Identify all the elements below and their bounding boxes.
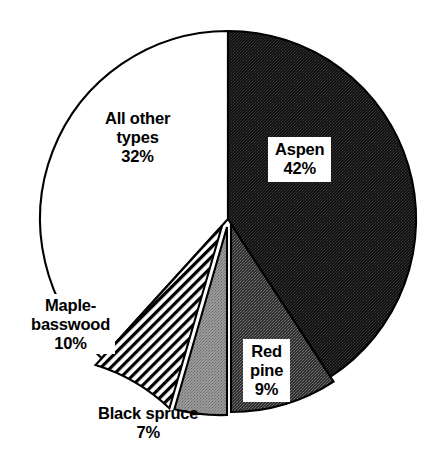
- slice-label-black-spruce: Black spruce 7%: [98, 404, 198, 442]
- slice-label-all-other-types-name-2: types: [105, 128, 170, 147]
- slice-label-black-spruce-value: 7%: [98, 423, 198, 442]
- slice-label-maple-basswood-name-1: Maple-: [31, 296, 110, 315]
- slice-label-red-pine-name-1: Red: [250, 342, 283, 361]
- slice-label-black-spruce-name: Black spruce: [98, 404, 198, 423]
- slice-label-aspen-name: Aspen: [275, 140, 324, 159]
- slice-label-all-other-types: All other types 32%: [101, 108, 174, 166]
- slice-label-aspen-value: 42%: [275, 159, 324, 178]
- slice-label-red-pine: Red pine 9%: [243, 339, 290, 402]
- slice-label-maple-basswood-value: 10%: [31, 334, 110, 353]
- pie-chart: Aspen 42% All other types 32% Maple- bas…: [0, 0, 436, 465]
- slice-label-red-pine-name-2: pine: [250, 361, 283, 380]
- slice-label-maple-basswood: Maple- basswood 10%: [26, 294, 115, 354]
- pie-chart-graphic: [0, 0, 436, 465]
- slice-label-aspen: Aspen 42%: [268, 137, 331, 182]
- slice-label-maple-basswood-name-2: basswood: [31, 315, 110, 334]
- slice-label-all-other-types-name-1: All other: [105, 109, 170, 128]
- slice-label-all-other-types-value: 32%: [105, 147, 170, 166]
- slice-label-red-pine-value: 9%: [250, 380, 283, 399]
